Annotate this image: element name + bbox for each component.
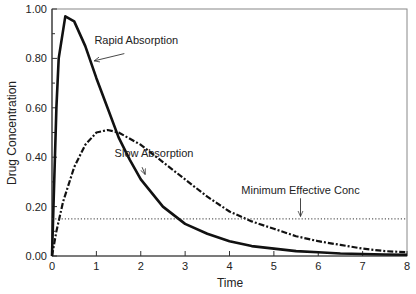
y-tick-label: 0.00 bbox=[26, 250, 47, 262]
x-tick-label: 4 bbox=[226, 260, 232, 272]
x-tick-label: 7 bbox=[360, 260, 366, 272]
x-tick-label: 6 bbox=[315, 260, 321, 272]
annotation-arrow bbox=[142, 167, 145, 174]
x-tick-label: 3 bbox=[182, 260, 188, 272]
y-tick-label: 0.20 bbox=[26, 201, 47, 213]
x-tick-label: 1 bbox=[93, 260, 99, 272]
x-tick-label: 2 bbox=[138, 260, 144, 272]
annotation-label: Minimum Effective Conc bbox=[241, 184, 360, 196]
x-tick-label: 0 bbox=[49, 260, 55, 272]
x-tick-label: 8 bbox=[404, 260, 410, 272]
annotations: Rapid AbsorptionSlow AbsorptionMinimum E… bbox=[94, 34, 360, 217]
annotation-label: Slow Absorption bbox=[115, 147, 194, 159]
y-tick-label: 0.40 bbox=[26, 151, 47, 163]
x-axis-label: Time bbox=[217, 276, 244, 290]
y-tick-label: 0.60 bbox=[26, 102, 47, 114]
annotation-label: Rapid Absorption bbox=[94, 34, 178, 46]
y-axis-label: Drug Concentration bbox=[5, 81, 19, 185]
pharmacokinetic-chart: 0123456780.000.200.400.600.801.00 Rapid … bbox=[0, 0, 416, 294]
annotation-arrow bbox=[94, 54, 124, 61]
series-lines bbox=[52, 16, 407, 256]
series-rapid-absorption bbox=[52, 16, 407, 256]
x-tick-label: 5 bbox=[271, 260, 277, 272]
chart-canvas: 0123456780.000.200.400.600.801.00 Rapid … bbox=[0, 0, 416, 294]
y-tick-label: 0.80 bbox=[26, 52, 47, 64]
y-tick-label: 1.00 bbox=[26, 3, 47, 15]
